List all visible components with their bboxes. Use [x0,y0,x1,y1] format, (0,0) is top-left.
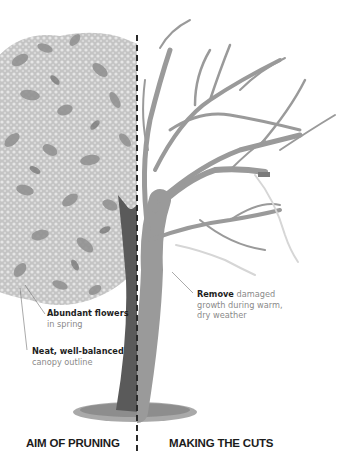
section-title-aim-of-pruning: AIM OF PRUNING [26,437,120,449]
cut-mark [258,172,270,177]
section-title-making-the-cuts: MAKING THE CUTS [169,437,273,449]
pruning-diagram: Abundant flowers in spring Neat, well-ba… [0,0,358,472]
annotation-canopy-outline: Neat, well-balanced canopy outline [32,346,124,367]
annotation-remove-damaged: Remove damaged growth during warm, dry w… [197,289,283,321]
annotation-abundant-flowers: Abundant flowers in spring [47,308,129,329]
bare-branches [137,20,335,412]
tree-illustration [0,0,358,472]
